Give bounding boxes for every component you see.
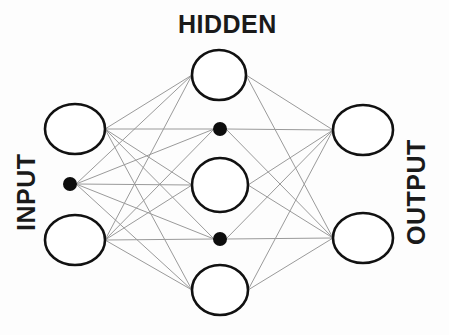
connection-edge [105, 75, 192, 240]
neuron-node-i2 [45, 215, 105, 265]
connection-edge [248, 130, 333, 290]
neuron-node-o2 [333, 213, 393, 263]
network-nodes [45, 50, 393, 315]
connection-edge [226, 129, 333, 130]
network-graphic [0, 0, 449, 335]
connection-edge [105, 239, 214, 240]
connection-edge [248, 238, 333, 290]
connection-edge [105, 185, 192, 240]
connection-edge [248, 130, 333, 185]
ellipsis-dot-i-dots [63, 177, 77, 191]
layer-label-hidden: HIDDEN [178, 12, 277, 37]
connection-edge [105, 129, 192, 290]
neuron-node-o1 [333, 105, 393, 155]
connection-edge [246, 75, 333, 130]
connection-edge [248, 185, 333, 238]
layer-label-input: INPUT [14, 154, 39, 232]
neuron-node-h3 [192, 265, 248, 315]
layer-label-output: OUTPUT [404, 139, 429, 245]
neural-network-diagram: INPUT HIDDEN OUTPUT [0, 0, 449, 335]
connection-edge [226, 238, 333, 239]
ellipsis-dot-h-dots-2 [213, 232, 227, 246]
neuron-node-h1 [192, 50, 246, 100]
connection-edge [105, 75, 192, 129]
connection-edge [246, 75, 333, 238]
neuron-node-i1 [45, 104, 105, 154]
neuron-node-h2 [192, 158, 248, 212]
ellipsis-dot-h-dots-1 [213, 122, 227, 136]
